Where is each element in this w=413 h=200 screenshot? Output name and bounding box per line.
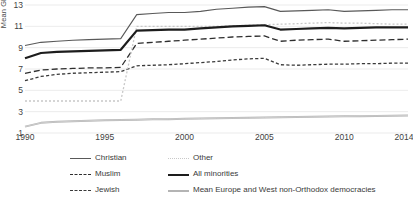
x-tick-label: 2014 [395,133,413,142]
legend-label: Christian [95,154,127,162]
gridlines [25,5,408,133]
legend-swatch-solid-gray-icon [168,186,189,194]
legend-item-jewish[interactable]: Jewish [70,186,119,194]
legend-item-muslim[interactable]: Muslim [70,170,120,178]
x-tick-label: 1990 [16,133,35,142]
series-line-muslim [25,36,408,73]
x-axis-ticks: 199019952000200520102014 [0,133,412,147]
x-tick-label: 2010 [335,133,354,142]
legend-label: All minorities [193,170,238,178]
legend-label: Other [193,154,213,162]
series-line-other [25,23,408,101]
legend-label: Mean Europe and West non-Orthodox democr… [193,186,376,194]
legend-swatch-solid-thin-icon [70,154,91,162]
x-tick-label: 1995 [95,133,114,142]
legend-label: Jewish [95,186,119,194]
legend-item-other[interactable]: Other [168,154,213,162]
series-line-all-minorities [25,25,408,58]
legend-swatch-long-dash-icon [70,170,91,178]
series-lines [25,7,408,127]
x-tick-label: 2005 [255,133,274,142]
legend-item-mean-europe-and-west-non-orthodox-democracies[interactable]: Mean Europe and West non-Orthodox democr… [168,186,376,194]
legend-swatch-solid-thick-icon [168,170,189,178]
legend-item-christian[interactable]: Christian [70,154,127,162]
legend-swatch-short-dash-icon [70,186,91,194]
legend-label: Muslim [95,170,120,178]
chart-legend: ChristianOtherMuslimAll minoritiesJewish… [0,152,412,200]
legend-swatch-dotted-icon [168,154,189,162]
x-tick-label: 2000 [175,133,194,142]
series-line-jewish [25,58,408,80]
legend-item-all-minorities[interactable]: All minorities [168,170,238,178]
